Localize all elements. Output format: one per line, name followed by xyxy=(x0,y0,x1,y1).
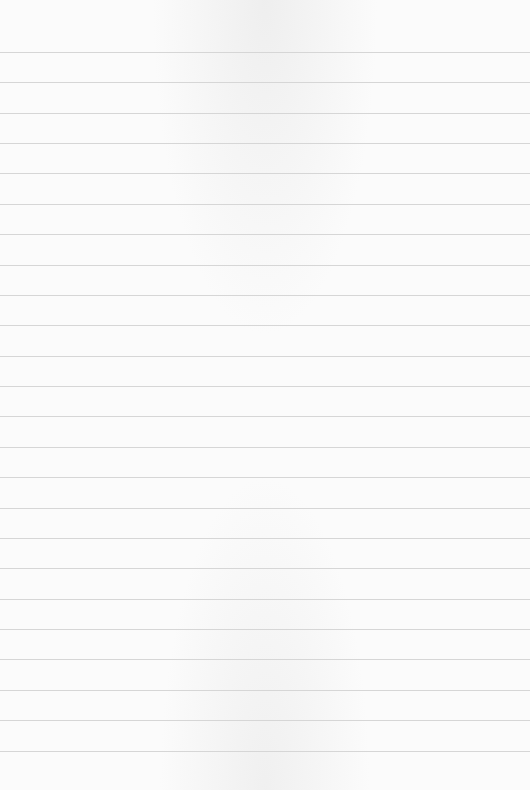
ruled-line xyxy=(0,599,530,600)
ruled-line xyxy=(0,113,530,114)
ruled-line xyxy=(0,659,530,660)
ruled-line xyxy=(0,143,530,144)
ruled-line xyxy=(0,265,530,266)
ruled-line xyxy=(0,538,530,539)
ruled-line xyxy=(0,629,530,630)
ruled-line xyxy=(0,477,530,478)
ruled-line xyxy=(0,52,530,53)
ruled-line xyxy=(0,325,530,326)
ruled-line xyxy=(0,720,530,721)
ruled-line xyxy=(0,386,530,387)
ruled-line xyxy=(0,508,530,509)
ruled-line xyxy=(0,690,530,691)
ruled-line xyxy=(0,356,530,357)
ruled-line xyxy=(0,295,530,296)
lined-paper-sheet xyxy=(0,0,530,790)
ruled-line xyxy=(0,173,530,174)
ruled-line xyxy=(0,204,530,205)
ruled-line xyxy=(0,447,530,448)
ruled-line xyxy=(0,568,530,569)
ruled-line xyxy=(0,751,530,752)
ruled-line xyxy=(0,234,530,235)
ruled-line xyxy=(0,416,530,417)
ruled-line xyxy=(0,82,530,83)
